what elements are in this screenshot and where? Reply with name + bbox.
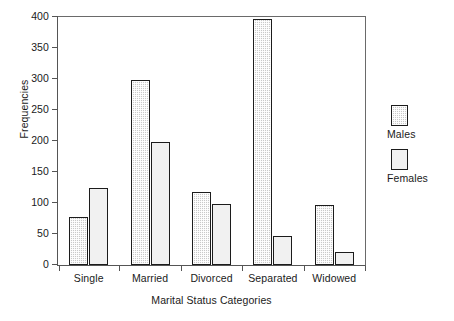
y-tick-label: 350	[6, 41, 49, 53]
legend-swatch-males	[391, 105, 408, 126]
x-tick-mark	[304, 266, 305, 271]
bar-single-males	[69, 217, 88, 265]
y-tick-label: 0	[6, 258, 49, 270]
x-tick-mark	[59, 266, 60, 271]
chart-legend: Males Females	[387, 105, 449, 193]
legend-label-males: Males	[387, 128, 449, 140]
legend-entry-females: Females	[387, 149, 449, 184]
y-tick-label: 200	[6, 134, 49, 146]
legend-entry-males: Males	[387, 105, 449, 140]
bar-married-females	[151, 142, 170, 265]
bar-divorced-males	[192, 192, 211, 265]
bar-widowed-females	[335, 252, 354, 265]
legend-label-females: Females	[387, 172, 449, 184]
bar-chart-figure: Frequencies 050100150200250300350400 Sin…	[0, 0, 454, 321]
bar-separated-males	[253, 19, 272, 265]
y-tick-label: 300	[6, 72, 49, 84]
plot-area	[58, 17, 365, 265]
y-tick-label: 250	[6, 103, 49, 115]
x-tick-mark	[119, 266, 120, 271]
bar-divorced-females	[212, 204, 231, 265]
bar-widowed-males	[315, 205, 334, 265]
x-tick-label-widowed: Widowed	[289, 272, 379, 284]
bar-separated-females	[273, 236, 292, 265]
y-tick-label: 100	[6, 196, 49, 208]
bar-married-males	[131, 80, 150, 265]
y-tick-label: 50	[6, 227, 49, 239]
legend-swatch-females	[391, 149, 408, 170]
x-tick-mark	[365, 266, 366, 271]
bar-single-females	[89, 188, 108, 265]
x-tick-mark	[181, 266, 182, 271]
x-tick-mark	[242, 266, 243, 271]
y-tick-label: 150	[6, 165, 49, 177]
x-axis-label: Marital Status Categories	[57, 294, 366, 306]
y-tick-label: 400	[6, 10, 49, 22]
